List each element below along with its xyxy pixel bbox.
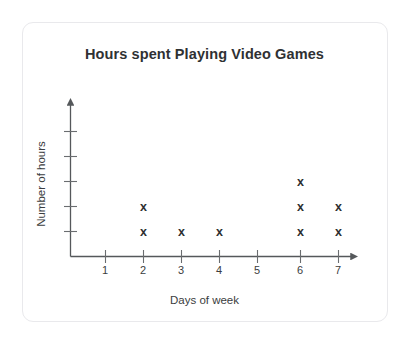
x-tick-label: 6 <box>288 264 312 276</box>
data-marker: x <box>136 199 152 215</box>
x-tick-label: 2 <box>131 264 155 276</box>
data-marker: x <box>293 199 309 215</box>
x-tick-label: 4 <box>207 264 231 276</box>
chart-axes <box>0 0 409 342</box>
data-marker: x <box>212 224 228 240</box>
x-tick-label: 1 <box>93 264 117 276</box>
data-marker: x <box>331 199 347 215</box>
y-axis-title: Number of hours <box>35 124 47 244</box>
chart-plot-area: Number of hours Days of week 1 2 3 4 5 6… <box>0 0 409 342</box>
data-marker: x <box>293 224 309 240</box>
x-tick-label: 7 <box>326 264 350 276</box>
x-axis-title: Days of week <box>0 294 409 306</box>
data-marker: x <box>293 174 309 190</box>
data-marker: x <box>174 224 190 240</box>
screenshot-root: Hours spent Playing Video Games <box>0 0 409 342</box>
x-tick-label: 5 <box>245 264 269 276</box>
x-tick-label: 3 <box>169 264 193 276</box>
data-marker: x <box>331 224 347 240</box>
data-marker: x <box>136 224 152 240</box>
